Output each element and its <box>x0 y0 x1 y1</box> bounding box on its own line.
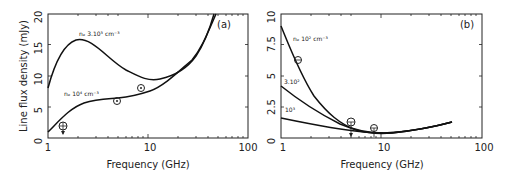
panel-b-ytick-5: 5 <box>266 73 277 79</box>
panel-a-curve1-label: nₑ 3.10³ cm⁻³ <box>79 30 120 37</box>
panel-b-curve-1e2 <box>281 26 452 134</box>
panel-a-xtick-10: 10 <box>144 142 157 153</box>
panel-a-point-3 <box>138 85 145 92</box>
panel-b-ytick-10: 10 <box>266 11 277 24</box>
panel-b-ytick-0: 0 <box>266 138 277 144</box>
panel-a-xtick-1: 1 <box>45 142 51 153</box>
panel-a-ytick-0: 0 <box>33 138 44 144</box>
panel-b-xtick-10: 10 <box>378 142 391 153</box>
panel-b-ytick-7-5: 7.5 <box>266 36 277 52</box>
panel-a-ytick-20: 20 <box>33 11 44 24</box>
panel-a-point-1 <box>59 122 67 135</box>
panel-b-tag: (b) <box>460 19 474 30</box>
panel-a-ytick-10: 10 <box>33 73 44 86</box>
panel-a-frame <box>48 14 248 138</box>
panel-a-ylabel: Line flux density (mJy) <box>18 20 29 132</box>
panel-b-xtick-1: 1 <box>280 142 286 153</box>
panel-b-ticks <box>281 14 482 138</box>
panel-b-curve-1e3 <box>281 118 452 133</box>
panel-b-xlabel: Frequency (GHz) <box>340 159 423 170</box>
panel-a-curve-3e3 <box>48 14 214 88</box>
panel-b-curve-3e2 <box>281 86 452 133</box>
panel-b-ytick-2-5: 2.5 <box>266 99 277 115</box>
panel-b: 0 2.5 5 7.5 10 1 10 100 Frequency (GHz) … <box>266 11 494 170</box>
panel-a-ytick-5: 5 <box>33 107 44 113</box>
panel-b-point-1 <box>295 57 302 64</box>
panel-b-curve1-label: nₑ 10² cm⁻³ <box>293 35 328 42</box>
panel-b-frame <box>281 14 482 138</box>
panel-b-curve2-label: 3.10² <box>284 78 300 85</box>
panel-a-ytick-15: 15 <box>33 42 44 55</box>
figure: 0 5 10 15 20 Line flux density (mJy) 1 1… <box>0 0 506 176</box>
panel-b-point-3 <box>371 125 378 138</box>
panel-b-xtick-100: 100 <box>474 142 493 153</box>
panel-a-tag: (a) <box>217 19 231 30</box>
panel-b-curve3-label: 10³ <box>285 106 296 113</box>
panel-a-xlabel: Frequency (GHz) <box>106 159 189 170</box>
panel-a-curve2-label: nₑ 10⁴ cm⁻³ <box>64 90 99 97</box>
panel-a-ticks <box>48 14 248 138</box>
panel-a: 0 5 10 15 20 Line flux density (mJy) 1 1… <box>18 11 258 170</box>
panel-a-xtick-100: 100 <box>238 142 257 153</box>
